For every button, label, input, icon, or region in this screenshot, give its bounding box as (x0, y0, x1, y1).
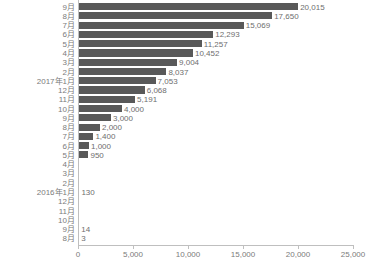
bar (78, 77, 156, 84)
category-label: 5月 (63, 150, 75, 159)
x-tick (133, 245, 134, 249)
chart-row: 2月8,037 (78, 67, 353, 76)
chart-row: 11月5,191 (78, 95, 353, 104)
chart-row: 6月12,293 (78, 30, 353, 39)
bar-value-label: 11,257 (204, 39, 228, 48)
bar-value-label: 5,191 (137, 95, 157, 104)
category-label: 9月 (63, 225, 75, 234)
category-label: 3月 (63, 58, 75, 67)
category-label: 8月 (63, 234, 75, 243)
bar-value-label: 3,000 (113, 113, 133, 122)
bar-value-label: 14 (81, 225, 90, 234)
chart-row: 9月3,000 (78, 113, 353, 122)
category-label: 8月 (63, 11, 75, 20)
chart-row: 8月3 (78, 234, 353, 243)
chart-row: 2017年1月7,053 (78, 76, 353, 85)
chart-row: 8月2,000 (78, 123, 353, 132)
bar-value-label: 20,015 (300, 2, 324, 11)
bar-value-label: 1,400 (95, 132, 115, 141)
category-label: 12月 (58, 86, 75, 95)
bar (78, 12, 272, 19)
category-label: 3月 (63, 169, 75, 178)
x-axis-line (78, 245, 353, 246)
x-tick-label: 20,000 (286, 250, 310, 260)
category-label: 4月 (63, 160, 75, 169)
bar (78, 49, 193, 56)
category-label: 7月 (63, 21, 75, 30)
bar (78, 3, 298, 10)
x-tick (353, 245, 354, 249)
bar-value-label: 4,000 (124, 104, 144, 113)
category-label: 9月 (63, 113, 75, 122)
x-tick-label: 0 (76, 250, 80, 260)
bar-value-label: 7,053 (158, 76, 178, 85)
chart-row: 3月 (78, 169, 353, 178)
chart-row: 8月17,650 (78, 11, 353, 20)
bar (78, 114, 111, 121)
category-label: 11月 (59, 206, 75, 215)
bar-value-label: 8,037 (168, 67, 188, 76)
category-label: 2月 (63, 178, 75, 187)
chart-row: 7月1,400 (78, 132, 353, 141)
category-label: 10月 (58, 215, 75, 224)
category-label: 2017年1月 (37, 76, 75, 85)
chart-row: 7月15,069 (78, 21, 353, 30)
bar (78, 151, 88, 158)
x-tick-label: 15,000 (231, 250, 255, 260)
bar-value-label: 1,000 (91, 141, 111, 150)
chart-row: 9月14 (78, 224, 353, 233)
chart-row: 10月 (78, 215, 353, 224)
chart-row: 9月20,015 (78, 2, 353, 11)
bar (78, 133, 93, 140)
chart-row: 4月10,452 (78, 48, 353, 57)
chart-row: 3月9,004 (78, 58, 353, 67)
bar-value-label: 130 (81, 188, 94, 197)
bar (78, 142, 89, 149)
chart-row: 12月6,068 (78, 85, 353, 94)
bar (78, 22, 244, 29)
bar (78, 68, 166, 75)
bar-value-label: 12,293 (215, 30, 239, 39)
category-label: 2016年1月 (37, 188, 75, 197)
bar-chart: 9月20,0158月17,6507月15,0696月12,2935月11,257… (0, 0, 367, 270)
chart-row: 2016年1月130 (78, 187, 353, 196)
category-label: 10月 (58, 104, 75, 113)
chart-row: 4月 (78, 160, 353, 169)
chart-row: 12月 (78, 197, 353, 206)
category-label: 2月 (63, 67, 75, 76)
y-axis-line (78, 0, 79, 245)
bar (78, 96, 135, 103)
category-label: 5月 (63, 39, 75, 48)
category-label: 8月 (63, 123, 75, 132)
chart-row: 2月 (78, 178, 353, 187)
bar-value-label: 17,650 (274, 11, 298, 20)
category-label: 9月 (63, 2, 75, 11)
bar-value-label: 950 (90, 150, 103, 159)
category-label: 6月 (63, 141, 75, 150)
chart-row: 10月4,000 (78, 104, 353, 113)
bar (78, 105, 122, 112)
category-label: 11月 (59, 95, 75, 104)
x-tick-label: 5,000 (123, 250, 143, 260)
category-label: 12月 (58, 197, 75, 206)
bar-value-label: 15,069 (246, 21, 270, 30)
x-tick (78, 245, 79, 249)
bar (78, 59, 177, 66)
bar-value-label: 2,000 (102, 123, 122, 132)
bar-value-label: 9,004 (179, 58, 199, 67)
x-tick (188, 245, 189, 249)
x-tick-label: 25,000 (341, 250, 365, 260)
chart-row: 11月 (78, 206, 353, 215)
category-label: 4月 (63, 48, 75, 57)
chart-row: 6月1,000 (78, 141, 353, 150)
bar (78, 124, 100, 131)
x-tick (243, 245, 244, 249)
bar-value-label: 3 (81, 234, 85, 243)
x-tick (298, 245, 299, 249)
category-label: 7月 (63, 132, 75, 141)
category-label: 6月 (63, 30, 75, 39)
chart-row: 5月11,257 (78, 39, 353, 48)
plot-area: 9月20,0158月17,6507月15,0696月12,2935月11,257… (78, 2, 353, 243)
bar (78, 40, 202, 47)
bar (78, 31, 213, 38)
